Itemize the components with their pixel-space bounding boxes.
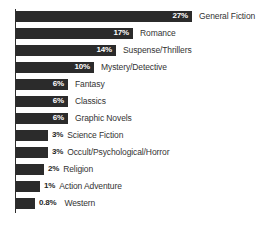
bar-category-label: General Fiction (199, 10, 255, 22)
bar-value-label: 6% (53, 112, 64, 124)
bar-category-label: Fantasy (75, 78, 105, 90)
bar-row: 6%Classics (15, 94, 264, 111)
bar-category-label: Western (64, 197, 95, 209)
bar-value-label: 0.8% (39, 197, 56, 209)
bar (16, 147, 48, 158)
bar-row: 17%Romance (15, 26, 264, 43)
bar-category-label: Graphic Novels (75, 112, 132, 124)
bar-category-label: Classics (75, 95, 106, 107)
bar-row: 0.8%Western (15, 196, 264, 213)
bar-value-label: 1% (44, 180, 55, 192)
bar-category-label: Suspense/Thrillers (123, 44, 192, 56)
bar-category-label: Occult/Psychological/Horror (67, 146, 169, 158)
chart-plot-area: 27%General Fiction17%Romance14%Suspense/… (15, 9, 264, 213)
bar-value-label: 3% (52, 129, 63, 141)
bar-value-label: 14% (97, 44, 112, 56)
bar-row: 10%Mystery/Detective (15, 60, 264, 77)
bar-value-label: 27% (173, 10, 188, 22)
bar-category-label: Science Fiction (67, 129, 123, 141)
bar-value-label: 3% (52, 146, 63, 158)
bar (16, 11, 192, 22)
bar (16, 164, 44, 175)
bar (16, 130, 48, 141)
bar-value-label: 2% (48, 163, 59, 175)
bar-category-label: Romance (140, 27, 176, 39)
bar (16, 181, 40, 192)
bar (16, 198, 35, 209)
bar-value-label: 6% (53, 95, 64, 107)
bar-row: 14%Suspense/Thrillers (15, 43, 264, 60)
bar-category-label: Mystery/Detective (101, 61, 167, 73)
bar-row: 1%Action Adventure (15, 179, 264, 196)
bar-row: 6%Fantasy (15, 77, 264, 94)
bar-chart: 27%General Fiction17%Romance14%Suspense/… (0, 0, 264, 230)
bar-value-label: 17% (114, 27, 129, 39)
bar-value-label: 10% (75, 61, 90, 73)
bar-category-label: Religion (63, 163, 93, 175)
bar-category-label: Action Adventure (59, 180, 122, 192)
bar-row: 27%General Fiction (15, 9, 264, 26)
bar-row: 6%Graphic Novels (15, 111, 264, 128)
bar-value-label: 6% (53, 78, 64, 90)
bar-row: 3%Occult/Psychological/Horror (15, 145, 264, 162)
bar-row: 3%Science Fiction (15, 128, 264, 145)
bar-row: 2%Religion (15, 162, 264, 179)
